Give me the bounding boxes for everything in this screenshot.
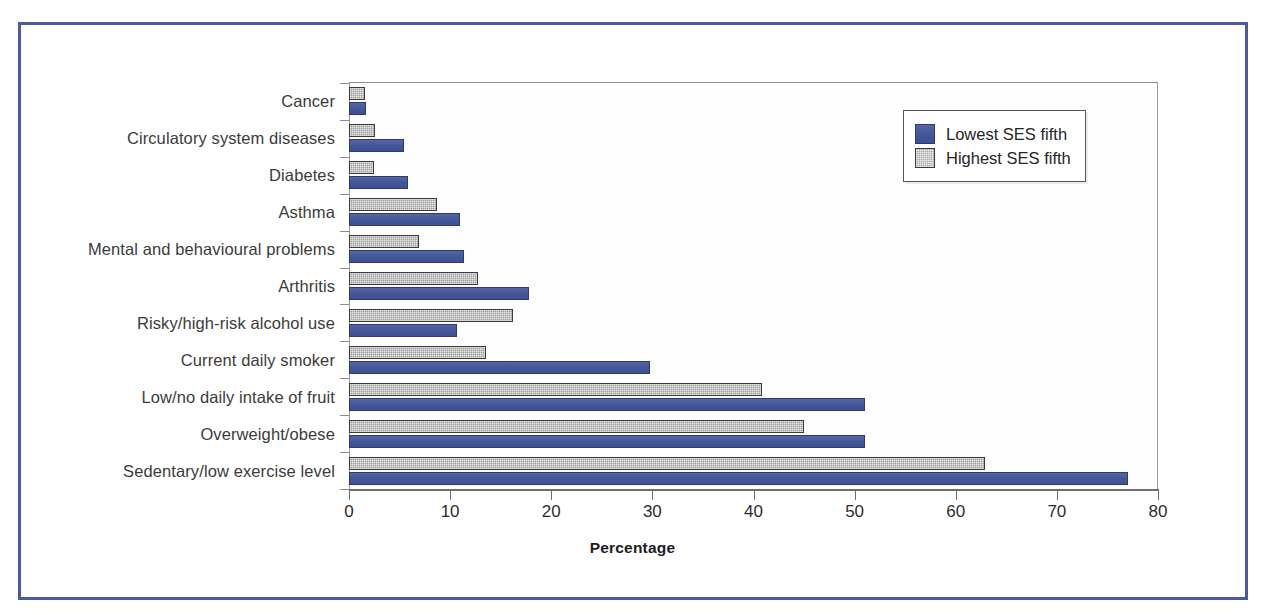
legend-label-lowest-ses: Lowest SES fifth — [946, 125, 1067, 144]
x-axis-tick — [754, 489, 755, 500]
x-axis-tick — [652, 489, 653, 500]
category-label: Asthma — [278, 203, 335, 222]
bar-highest-ses — [349, 457, 985, 470]
bar-group — [349, 452, 1158, 489]
x-axis-tick-label: 50 — [845, 502, 864, 522]
bar-lowest-ses — [349, 472, 1128, 485]
bar-group — [349, 231, 1158, 268]
category-axis-labels: CancerCirculatory system diseasesDiabete… — [20, 83, 335, 489]
x-axis-tick — [956, 489, 957, 500]
bar-lowest-ses — [349, 398, 865, 411]
category-label: Risky/high-risk alcohol use — [137, 313, 335, 332]
bar-group — [349, 415, 1158, 452]
x-axis-tick-label: 20 — [542, 502, 561, 522]
category-tick — [340, 194, 349, 195]
category-tick — [340, 83, 349, 84]
category-label: Current daily smoker — [181, 350, 335, 369]
bar-highest-ses — [349, 198, 437, 211]
category-label: Low/no daily intake of fruit — [141, 387, 335, 406]
category-label: Diabetes — [269, 166, 335, 185]
x-axis-tick-label: 40 — [744, 502, 763, 522]
bar-highest-ses — [349, 272, 478, 285]
bar-highest-ses — [349, 235, 419, 248]
x-axis-tick — [551, 489, 552, 500]
bar-lowest-ses — [349, 102, 366, 115]
x-axis-tick — [1057, 489, 1058, 500]
bar-highest-ses — [349, 87, 365, 100]
category-tick — [340, 415, 349, 416]
legend-label-highest-ses: Highest SES fifth — [946, 149, 1071, 168]
category-label: Cancer — [281, 92, 335, 111]
category-label: Circulatory system diseases — [127, 129, 335, 148]
bar-lowest-ses — [349, 287, 529, 300]
x-axis-tick-label: 80 — [1149, 502, 1168, 522]
category-tick — [340, 231, 349, 232]
bar-lowest-ses — [349, 324, 457, 337]
x-axis-tick-label: 0 — [344, 502, 353, 522]
bar-highest-ses — [349, 161, 374, 174]
category-tick — [340, 120, 349, 121]
category-tick — [340, 157, 349, 158]
x-axis-title: Percentage — [0, 539, 1265, 557]
category-tick — [340, 268, 349, 269]
x-axis-tick — [349, 489, 350, 500]
category-label: Overweight/obese — [200, 424, 335, 443]
bar-highest-ses — [349, 383, 762, 396]
x-axis-tick — [450, 489, 451, 500]
category-tick — [340, 341, 349, 342]
bar-lowest-ses — [349, 139, 404, 152]
bar-group — [349, 341, 1158, 378]
legend-swatch-highest-ses — [915, 148, 935, 168]
bar-group — [349, 378, 1158, 415]
bar-group — [349, 304, 1158, 341]
bar-lowest-ses — [349, 435, 865, 448]
category-tick — [340, 489, 349, 490]
bar-highest-ses — [349, 346, 486, 359]
category-label: Mental and behavioural problems — [88, 240, 335, 259]
bar-lowest-ses — [349, 213, 460, 226]
category-tick — [340, 452, 349, 453]
bar-highest-ses — [349, 420, 804, 433]
x-axis-tick — [1158, 489, 1159, 500]
bar-lowest-ses — [349, 250, 464, 263]
legend-item-lowest-ses: Lowest SES fifth — [915, 124, 1071, 144]
bar-group — [349, 194, 1158, 231]
x-axis-ticks: 01020304050607080 — [349, 489, 1158, 501]
legend-item-highest-ses: Highest SES fifth — [915, 148, 1071, 168]
bar-group — [349, 268, 1158, 305]
bar-chart: CancerCirculatory system diseasesDiabete… — [0, 0, 1265, 615]
x-axis-tick-label: 10 — [441, 502, 460, 522]
bar-lowest-ses — [349, 361, 650, 374]
category-tick — [340, 378, 349, 379]
x-axis-tick — [855, 489, 856, 500]
chart-legend: Lowest SES fifth Highest SES fifth — [903, 110, 1086, 182]
category-label: Sedentary/low exercise level — [123, 461, 335, 480]
category-label: Arthritis — [278, 277, 335, 296]
x-axis-tick-label: 30 — [643, 502, 662, 522]
legend-swatch-lowest-ses — [915, 124, 935, 144]
bar-highest-ses — [349, 124, 375, 137]
category-tick — [340, 304, 349, 305]
bar-lowest-ses — [349, 176, 408, 189]
x-axis-tick-label: 70 — [1047, 502, 1066, 522]
bar-highest-ses — [349, 309, 513, 322]
x-axis-tick-label: 60 — [946, 502, 965, 522]
